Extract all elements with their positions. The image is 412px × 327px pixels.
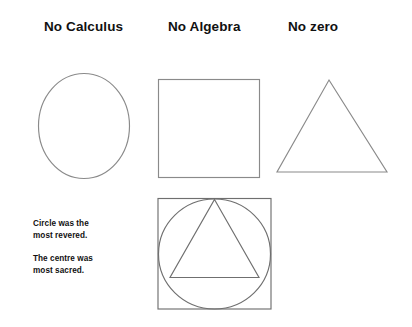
caption-circle-revered: Circle was the most revered. bbox=[33, 218, 89, 241]
heading-no-zero: No zero bbox=[288, 19, 338, 34]
composite-square-circle-triangle bbox=[155, 195, 277, 315]
caption-centre-sacred: The centre was most sacred. bbox=[33, 253, 93, 276]
square-outline bbox=[159, 80, 260, 178]
square-shape bbox=[156, 77, 264, 183]
composite-triangle-outline bbox=[170, 200, 259, 278]
diagram-canvas: No Calculus No Algebra No zero Circle wa… bbox=[0, 0, 412, 327]
triangle-shape bbox=[274, 76, 394, 180]
heading-no-algebra: No Algebra bbox=[168, 19, 241, 34]
triangle-outline bbox=[277, 80, 387, 172]
circle-shape bbox=[38, 72, 134, 182]
heading-no-calculus: No Calculus bbox=[44, 19, 123, 34]
circle-outline bbox=[39, 74, 130, 179]
composite-circle-outline bbox=[159, 199, 271, 309]
